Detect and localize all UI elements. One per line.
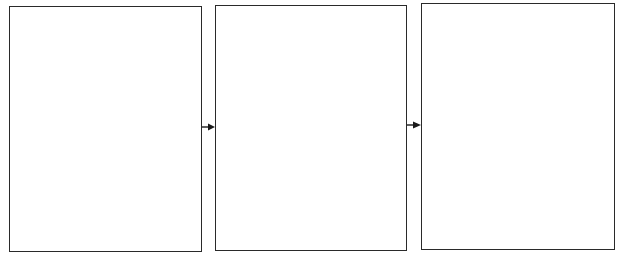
arrows-layer: [0, 0, 619, 262]
arrow-1-icon: [202, 124, 215, 131]
arrow-2-icon: [407, 122, 421, 129]
